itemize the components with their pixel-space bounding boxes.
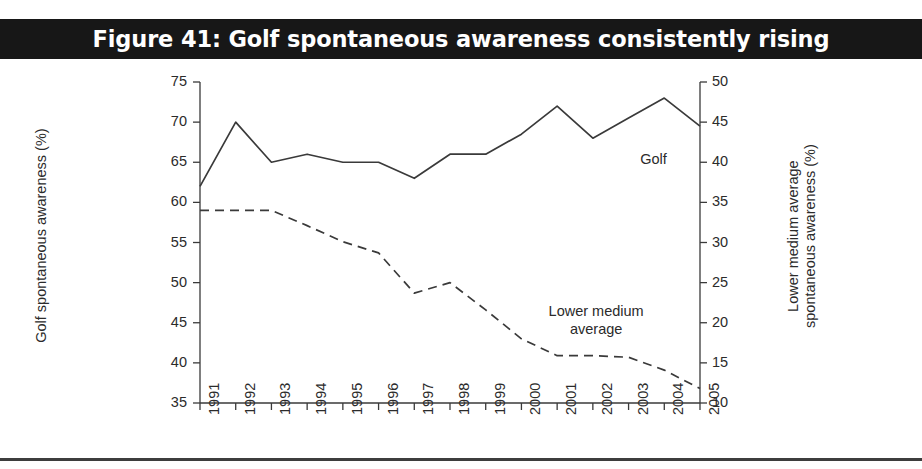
series-annotation-lower-medium: Lower medium average [521, 302, 671, 338]
right-axis-tick-label: 30 [712, 234, 746, 250]
left-axis-tick-label: 70 [153, 113, 187, 129]
x-axis-tick-label: 2005 [706, 383, 722, 415]
lower-medium-label-line1: Lower medium [549, 303, 644, 319]
left-axis-tick-label: 50 [153, 274, 187, 290]
right-axis-tick-label: 45 [712, 113, 746, 129]
series-annotation-golf: Golf [624, 150, 684, 168]
lower-medium-label-line2: average [570, 321, 622, 337]
x-axis-tick-label: 2000 [527, 383, 543, 415]
left-axis-tick-label: 40 [153, 354, 187, 370]
x-axis-tick-label: 1996 [385, 383, 401, 415]
x-axis-tick-label: 1997 [420, 383, 436, 415]
x-axis-tick-label: 1994 [313, 383, 329, 415]
bottom-divider-rule [0, 458, 922, 461]
right-axis-tick-label: 15 [712, 354, 746, 370]
figure-title-band: Figure 41: Golf spontaneous awareness co… [0, 19, 922, 59]
axis-lines [193, 82, 707, 410]
chart-plot-area: Golf spontaneous awareness (%) Lower med… [0, 59, 922, 455]
x-axis-tick-label: 2001 [563, 383, 579, 415]
x-axis-tick-label: 1999 [492, 383, 508, 415]
left-axis-tick-label: 45 [153, 314, 187, 330]
right-axis-tick-label: 25 [712, 274, 746, 290]
x-axis-tick-label: 1995 [349, 383, 365, 415]
right-axis-tick-label: 35 [712, 193, 746, 209]
series-line-golf [200, 98, 700, 186]
x-axis-tick-label: 2003 [635, 383, 651, 415]
figure-root: Figure 41: Golf spontaneous awareness co… [0, 0, 922, 469]
left-axis-tick-label: 35 [153, 394, 187, 410]
x-axis-tick-label: 1992 [242, 383, 258, 415]
golf-label-text: Golf [640, 151, 667, 167]
x-axis-tick-label: 2002 [599, 383, 615, 415]
series-line-lower-medium-average [200, 210, 700, 388]
x-axis-tick-label: 1993 [277, 383, 293, 415]
right-axis-tick-label: 40 [712, 153, 746, 169]
left-axis-tick-label: 60 [153, 193, 187, 209]
right-axis-tick-label: 50 [712, 73, 746, 89]
figure-title: Figure 41: Golf spontaneous awareness co… [93, 26, 830, 52]
left-axis-tick-label: 55 [153, 234, 187, 250]
x-axis-tick-label: 1991 [206, 383, 222, 415]
right-axis-tick-label: 20 [712, 314, 746, 330]
x-axis-tick-label: 2004 [670, 383, 686, 415]
left-axis-tick-label: 65 [153, 153, 187, 169]
data-series-group [200, 98, 700, 389]
x-axis-tick-label: 1998 [456, 383, 472, 415]
left-axis-tick-label: 75 [153, 73, 187, 89]
